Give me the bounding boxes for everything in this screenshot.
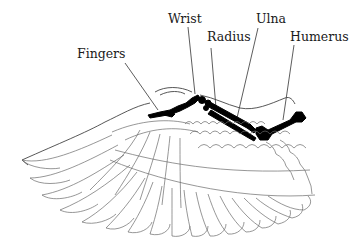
label-humerus: Humerus [290,31,349,44]
humerus-bone [256,112,306,140]
label-radius: Radius [207,31,251,44]
wing-bones [148,95,306,141]
bird-wing-diagram: Fingers Wrist Radius Ulna Humerus [0,0,362,249]
label-ulna: Ulna [256,13,286,26]
wing-outline [22,88,295,166]
label-wrist: Wrist [168,13,202,26]
label-fingers: Fingers [77,48,126,61]
fingers-leader [125,63,158,110]
flight-feathers [22,130,312,236]
wrist-leader [188,27,195,94]
wrist-bone-1 [199,97,206,104]
humerus-leader [283,45,294,120]
